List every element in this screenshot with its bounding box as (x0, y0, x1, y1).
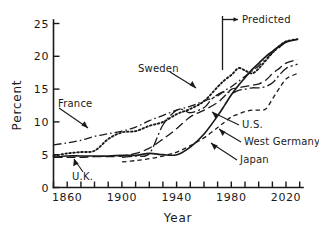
x-tick-1900: 1900 (107, 191, 137, 204)
y-axis-title: Percent (10, 80, 24, 131)
series-label-west-germany: West Germany (244, 136, 319, 147)
line-chart: 0 5 10 15 20 25 (0, 0, 319, 234)
x-tick-1980: 1980 (216, 191, 246, 204)
series-label-us: U.S. (242, 119, 263, 130)
series-label-france: France (58, 98, 92, 109)
y-tick-5: 5 (41, 149, 49, 162)
series-label-uk: U.K. (72, 171, 93, 182)
y-tick-25: 25 (34, 18, 49, 31)
y-tick-0: 0 (41, 182, 49, 195)
x-tick-2020: 2020 (271, 191, 301, 204)
predicted-label: Predicted (242, 14, 291, 25)
y-tick-15: 15 (34, 83, 49, 96)
y-tick-20: 20 (34, 50, 49, 63)
series-label-sweden: Sweden (138, 63, 179, 74)
x-axis-title: Year (163, 211, 193, 225)
x-tick-1940: 1940 (161, 191, 191, 204)
x-tick-1860: 1860 (52, 191, 82, 204)
chart-container: 0 5 10 15 20 25 (0, 0, 319, 234)
y-tick-10: 10 (34, 116, 49, 129)
series-label-japan: Japan (239, 154, 269, 165)
